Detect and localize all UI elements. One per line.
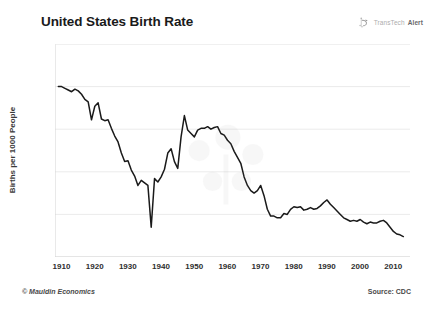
footer-copyright: © Mauldin Economics	[22, 288, 95, 295]
x-tick-label: 1910	[53, 262, 71, 271]
x-tick-label: 1980	[285, 262, 303, 271]
chart-title: United States Birth Rate	[41, 14, 193, 29]
axis-frame	[55, 44, 410, 257]
brand-logo: TransTech Alert	[358, 16, 423, 29]
x-tick-label: 1960	[218, 262, 236, 271]
x-tick-label: 1920	[86, 262, 104, 271]
y-axis-title: Births per 1000 People	[8, 107, 17, 193]
x-tick-label: 2010	[384, 262, 402, 271]
birth-rate-line-plot	[55, 44, 410, 257]
footer-source: Source: CDC	[368, 288, 411, 295]
x-tick-label: 2000	[351, 262, 369, 271]
plot-area	[55, 44, 410, 257]
x-tick-label: 1950	[185, 262, 203, 271]
x-tick-label: 1940	[152, 262, 170, 271]
brand-name-light: TransTech	[374, 19, 405, 26]
transtech-logo-icon	[358, 16, 371, 29]
gridlines	[55, 44, 410, 257]
x-tick-label: 1990	[318, 262, 336, 271]
x-tick-label: 1970	[252, 262, 270, 271]
brand-name-bold: Alert	[408, 19, 423, 26]
birth-rate-chart-figure: United States Birth Rate TransTech Alert…	[0, 0, 431, 313]
x-tick-label: 1930	[119, 262, 137, 271]
